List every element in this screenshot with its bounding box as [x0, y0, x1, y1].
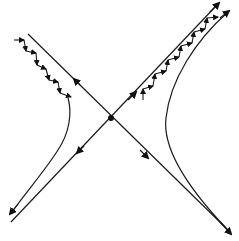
asymptote-b: [11, 3, 219, 222]
arrow-down-left-icon: [10, 204, 18, 214]
arrow-down-left-icon: [77, 146, 84, 153]
center-point: [108, 115, 114, 121]
diagram-canvas: [0, 0, 239, 241]
arrow-up-right-icon: [210, 3, 219, 12]
arrow-up-right-icon: [220, 11, 229, 18]
asymptote-a: [28, 34, 231, 234]
hyperbola-diagram: [0, 0, 239, 241]
arrow-up-right-icon: [128, 92, 136, 100]
arrow-up-left-icon: [74, 79, 80, 85]
hyperbola-right: [166, 11, 229, 228]
zigzag-right: [143, 17, 218, 100]
hyperbola-left: [10, 98, 70, 214]
